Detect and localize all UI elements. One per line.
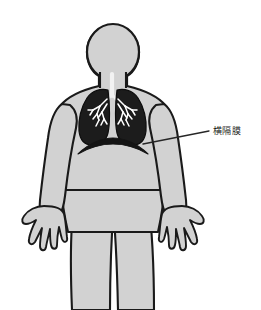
right-hand (159, 206, 204, 250)
left-hand (22, 206, 67, 250)
diaphragm-label: 横隔膜 (213, 126, 241, 137)
anatomy-diagram: 横隔膜 (0, 0, 261, 310)
anatomy-illustration (0, 0, 261, 310)
body-group (22, 24, 203, 310)
